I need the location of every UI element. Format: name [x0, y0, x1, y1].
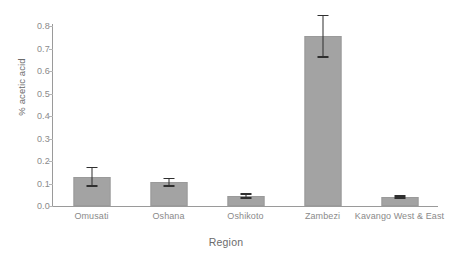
y-tick-mark — [49, 116, 53, 117]
x-axis-title: Region — [0, 236, 452, 248]
bar — [304, 36, 341, 206]
error-bar-cap-bottom — [317, 56, 328, 58]
y-tick-label: 0.5 — [10, 89, 50, 99]
error-bar-cap-bottom — [394, 197, 405, 199]
error-bar — [240, 193, 251, 198]
bar-group — [361, 26, 438, 206]
y-tick-label: 0.8 — [10, 21, 50, 31]
error-bar-cap-top — [240, 193, 251, 195]
error-bar-cap-bottom — [240, 197, 251, 199]
bar-group — [207, 26, 284, 206]
error-bar-cap-bottom — [86, 185, 97, 187]
x-axis-tick-labels: OmusatiOshanaOshikotoZambeziKavango West… — [53, 210, 438, 226]
error-bar-cap-bottom — [163, 185, 174, 187]
y-tick-label: 0.3 — [10, 134, 50, 144]
error-bar — [86, 167, 97, 187]
error-bar-stem — [322, 15, 323, 58]
error-bar — [394, 195, 405, 198]
y-tick-mark — [49, 206, 53, 207]
error-bar — [317, 15, 328, 58]
error-bar-stem — [91, 167, 92, 187]
x-axis-line — [52, 206, 438, 207]
y-tick-label: 0.4 — [10, 111, 50, 121]
error-bar-cap-top — [163, 178, 174, 180]
y-tick-mark — [49, 71, 53, 72]
y-tick-mark — [49, 49, 53, 50]
y-tick-mark — [49, 184, 53, 185]
bar-chart: % acetic acid 0.00.10.20.30.40.50.60.70.… — [0, 0, 452, 256]
bar-group — [284, 26, 361, 206]
x-tick-label: Kavango West & East — [345, 210, 452, 222]
error-bar-cap-top — [86, 167, 97, 169]
bar-group — [53, 26, 130, 206]
y-tick-label: 0.2 — [10, 156, 50, 166]
error-bar-cap-top — [317, 15, 328, 17]
plot-area — [53, 26, 438, 206]
error-bar — [163, 178, 174, 187]
y-tick-mark — [49, 94, 53, 95]
y-tick-label: 0.7 — [10, 44, 50, 54]
y-tick-mark — [49, 161, 53, 162]
y-tick-mark — [49, 139, 53, 140]
y-tick-mark — [49, 26, 53, 27]
y-tick-label: 0.6 — [10, 66, 50, 76]
y-tick-label: 0.1 — [10, 179, 50, 189]
bar-group — [130, 26, 207, 206]
